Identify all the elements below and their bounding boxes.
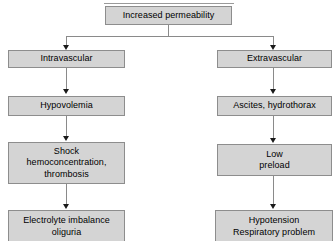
connector-intravascular-to-hypovolemia [66, 68, 67, 90]
arrowhead-to-ascites [270, 89, 276, 94]
node-intravascular: Intravascular [8, 50, 125, 68]
node-extravascular: Extravascular [217, 50, 332, 68]
arrowhead-to-hypotension [270, 204, 276, 209]
node-hypovolemia: Hypovolemia [8, 96, 125, 116]
node-hypotension-respiratory-problem: Hypotension Respiratory problem [215, 210, 333, 241]
arrowhead-to-electrolyte-imbalance [63, 204, 69, 209]
connector-split-bar [66, 36, 274, 37]
cropped-top-rule [104, 3, 234, 4]
node-low-preload: Low preload [217, 144, 332, 176]
arrowhead-to-shock [63, 136, 69, 141]
arrowhead-to-hypovolemia [63, 89, 69, 94]
connector-low-preload-to-hypotension [273, 176, 274, 205]
node-increased-permeability: Increased permeability [105, 6, 232, 25]
connector-extravascular-to-ascites [273, 68, 274, 90]
node-electrolyte-imbalance-oliguria: Electrolyte imbalance oliguria [8, 210, 125, 241]
node-ascites-hydrothorax: Ascites, hydrothorax [217, 96, 332, 116]
flowchart-canvas: Increased permeability Intravascular Hyp… [0, 0, 333, 241]
node-shock-hemoconcentration-thrombosis: Shock hemoconcentration, thrombosis [8, 142, 125, 184]
connector-hypovolemia-to-shock [66, 116, 67, 137]
connector-shock-to-electrolyte [66, 184, 67, 205]
connector-ascites-to-low-preload [273, 116, 274, 139]
arrowhead-to-low-preload [270, 138, 276, 143]
